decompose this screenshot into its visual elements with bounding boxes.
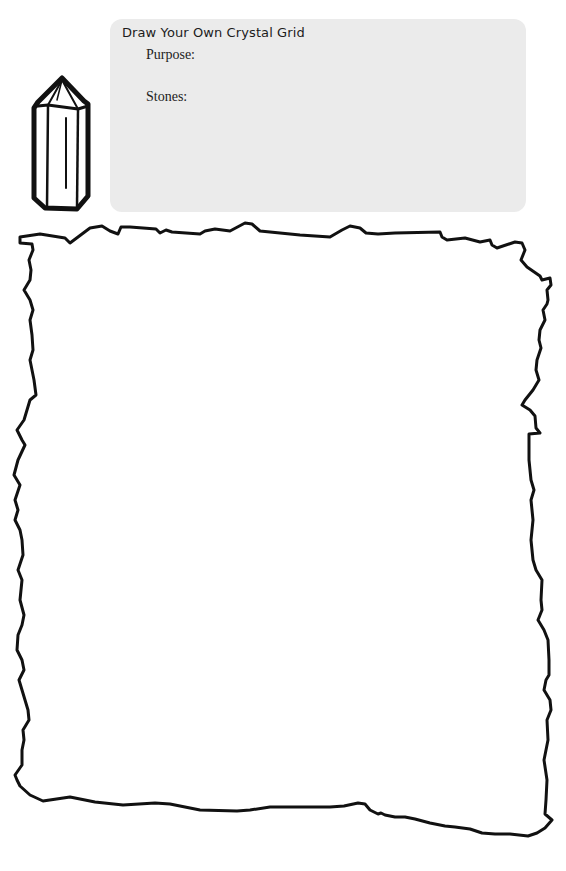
crystal-point-icon xyxy=(28,74,98,214)
worksheet-title: Draw Your Own Crystal Grid xyxy=(122,25,305,40)
crystal-grid-info-box: Draw Your Own Crystal Grid Purpose: Ston… xyxy=(110,19,526,212)
purpose-field-label: Purpose: xyxy=(146,47,195,63)
drawing-area-frame[interactable] xyxy=(0,220,566,860)
torn-paper-border xyxy=(14,223,552,836)
stones-field-label: Stones: xyxy=(146,89,187,105)
